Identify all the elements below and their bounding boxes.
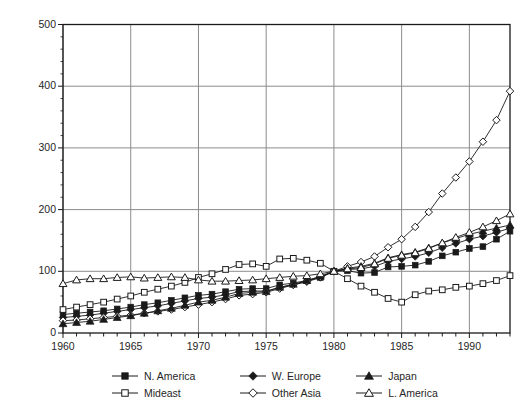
data-point-open-triangle <box>167 273 175 280</box>
x-tick-label: 1970 <box>178 340 218 352</box>
legend-item-japan[interactable]: Japan <box>354 369 440 383</box>
legend-marker <box>354 369 384 383</box>
data-point-open-triangle <box>479 223 487 230</box>
chart-legend: N. AmericaW. EuropeJapan MideastOther As… <box>110 367 440 405</box>
data-point-filled-square <box>122 372 128 378</box>
legend-marker <box>354 386 384 400</box>
legend-label: L. America <box>388 387 438 399</box>
x-tick-label: 1980 <box>314 340 354 352</box>
legend-row-1: N. AmericaW. EuropeJapan <box>110 367 440 384</box>
legend-marker <box>238 369 268 383</box>
data-point-open-square <box>277 256 283 262</box>
data-point-open-square <box>122 389 128 395</box>
data-point-open-triangle <box>506 210 514 217</box>
data-point-open-square <box>358 283 364 289</box>
data-point-filled-square <box>480 244 486 250</box>
data-point-open-square <box>494 278 500 284</box>
data-point-open-square <box>60 307 66 313</box>
legend-label: Mideast <box>144 387 181 399</box>
data-point-filled-square <box>494 236 500 242</box>
legend-item-l-america[interactable]: L. America <box>354 386 440 400</box>
data-point-open-square <box>114 296 120 302</box>
legend-marker-open-square <box>110 386 140 400</box>
data-point-open-triangle <box>465 229 473 236</box>
data-point-open-square <box>250 261 256 267</box>
y-tick-label: 100 <box>22 264 56 276</box>
data-point-open-square <box>74 304 80 310</box>
data-point-open-square <box>467 283 473 289</box>
legend-item-mideast[interactable]: Mideast <box>110 386 238 400</box>
chart-figure: Quantum index (1980 =100) 50040030020010… <box>0 0 532 412</box>
data-point-filled-square <box>467 246 473 252</box>
data-point-open-triangle <box>452 234 460 241</box>
data-point-open-square <box>399 299 405 305</box>
data-point-open-square <box>385 296 391 302</box>
data-point-open-triangle <box>493 217 501 224</box>
legend-label: W. Europe <box>272 370 321 382</box>
data-point-open-diamond <box>479 138 487 146</box>
data-point-open-square <box>412 292 418 298</box>
legend-marker-filled-square <box>110 369 140 383</box>
legend-label: Japan <box>388 370 417 382</box>
data-point-open-square <box>155 286 161 292</box>
data-point-open-square <box>141 289 147 295</box>
data-point-open-square <box>87 302 93 308</box>
legend-item-w-europe[interactable]: W. Europe <box>238 369 354 383</box>
data-point-open-diamond <box>506 87 514 95</box>
data-point-open-diamond <box>249 388 258 397</box>
x-tick-label: 1990 <box>449 340 489 352</box>
data-point-filled-triangle <box>506 221 514 228</box>
data-point-open-triangle <box>425 245 433 252</box>
data-point-open-diamond <box>384 243 392 251</box>
data-point-open-square <box>372 289 378 295</box>
data-point-open-square <box>223 267 229 273</box>
legend-marker-open-diamond <box>238 386 268 400</box>
legend-marker-open-triangle <box>354 386 384 400</box>
data-point-open-square <box>426 288 432 294</box>
x-tick-label: 1965 <box>111 340 151 352</box>
data-point-open-square <box>304 257 310 263</box>
data-point-open-square <box>101 299 107 305</box>
data-point-open-square <box>209 271 215 277</box>
data-point-filled-square <box>426 259 432 265</box>
data-point-open-square <box>169 283 175 289</box>
data-point-open-square <box>128 293 134 299</box>
series-japan <box>59 221 514 326</box>
series-w-europe <box>59 224 514 321</box>
legend-label: N. America <box>144 370 195 382</box>
y-tick-label: 400 <box>22 79 56 91</box>
data-point-open-square <box>453 284 459 290</box>
legend-marker-filled-triangle <box>354 369 384 383</box>
x-tick-label: 1960 <box>43 340 83 352</box>
legend-row-2: MideastOther AsiaL. America <box>110 384 440 401</box>
data-point-filled-square <box>439 253 445 259</box>
data-point-open-square <box>318 260 324 266</box>
y-tick-label: 200 <box>22 203 56 215</box>
data-point-open-square <box>439 287 445 293</box>
legend-item-other-asia[interactable]: Other Asia <box>238 386 354 400</box>
y-tick-label: 0 <box>22 326 56 338</box>
data-point-filled-square <box>453 249 459 255</box>
legend-marker-filled-diamond <box>238 369 268 383</box>
data-point-open-square <box>236 262 242 268</box>
legend-label: Other Asia <box>272 387 321 399</box>
data-point-open-square <box>480 281 486 287</box>
data-point-filled-square <box>399 264 405 270</box>
x-tick-label: 1985 <box>382 340 422 352</box>
data-point-open-square <box>263 264 269 270</box>
legend-item-n-america[interactable]: N. America <box>110 369 238 383</box>
legend-marker <box>238 386 268 400</box>
data-point-open-square <box>345 276 351 282</box>
legend-marker <box>110 386 140 400</box>
data-point-open-diamond <box>493 116 501 124</box>
data-point-open-square <box>290 255 296 261</box>
data-point-filled-diamond <box>249 371 258 380</box>
data-point-open-square <box>507 273 513 279</box>
legend-marker <box>110 369 140 383</box>
data-point-open-triangle <box>127 273 135 280</box>
data-point-filled-square <box>412 262 418 268</box>
y-tick-label: 300 <box>22 141 56 153</box>
y-tick-label: 500 <box>22 18 56 30</box>
x-tick-label: 1975 <box>246 340 286 352</box>
